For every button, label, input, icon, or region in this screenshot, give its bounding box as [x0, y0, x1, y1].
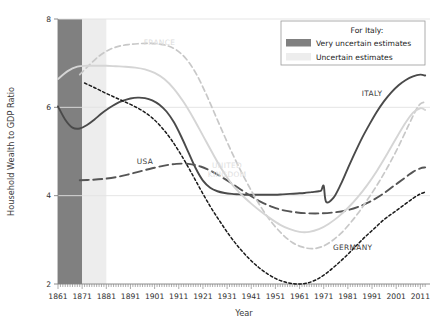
legend-label-uncertain: Uncertain estimates [316, 53, 393, 62]
wealth-gdp-line-chart: 2468186118711881189119011911192119311941… [0, 0, 434, 331]
series-labels: ITALYUSAGERMANYFRANCEUNITEDKINGDOM [137, 38, 383, 252]
x-tick-label-1961: 1961 [290, 292, 309, 301]
x-tick-label-1951: 1951 [266, 292, 285, 301]
x-tick-label-1991: 1991 [362, 292, 381, 301]
series-label-france: FRANCE [144, 38, 176, 47]
y-tick-label-6: 6 [46, 103, 51, 112]
x-tick-label-1981: 1981 [338, 292, 357, 301]
chart-container: 2468186118711881189119011911192119311941… [0, 0, 434, 331]
x-tick-label-1931: 1931 [217, 292, 236, 301]
legend: For Italy:Very uncertain estimatesUncert… [281, 21, 425, 65]
y-tick-label-2: 2 [46, 280, 51, 289]
x-tick-label-1901: 1901 [145, 292, 164, 301]
series-line-germany [85, 83, 426, 284]
legend-swatch-uncertain [286, 53, 311, 61]
band-very-uncertain [58, 19, 82, 284]
legend-swatch-very-uncertain [286, 39, 311, 47]
x-tick-label-1861: 1861 [48, 292, 67, 301]
x-tick-label-1881: 1881 [97, 292, 116, 301]
x-tick-label-1921: 1921 [193, 292, 212, 301]
y-axis-title: Household Wealth to GDP Ratio [6, 87, 16, 216]
x-tick-label-2011: 2011 [411, 292, 430, 301]
x-tick-label-1971: 1971 [314, 292, 333, 301]
x-tick-label-1911: 1911 [169, 292, 188, 301]
band-uncertain [82, 19, 106, 284]
legend-label-very-uncertain: Very uncertain estimates [316, 39, 411, 48]
series-line-france [80, 43, 425, 248]
series-label-italy: ITALY [362, 89, 383, 98]
series-label-germany: GERMANY [333, 243, 373, 252]
series-label-usa: USA [137, 157, 153, 166]
series-label-united-kingdom: KINGDOM [208, 170, 247, 179]
x-axis-title: Year [234, 308, 253, 318]
x-tick-label-1891: 1891 [121, 292, 140, 301]
x-tick-label-2001: 2001 [387, 292, 406, 301]
x-tick-label-1941: 1941 [242, 292, 261, 301]
legend-title: For Italy: [351, 26, 384, 35]
series-line-usa [80, 164, 425, 214]
x-tick-label-1871: 1871 [72, 292, 91, 301]
uncertainty-bands [58, 19, 106, 284]
y-tick-label-4: 4 [46, 191, 51, 200]
y-tick-label-8: 8 [46, 15, 51, 24]
